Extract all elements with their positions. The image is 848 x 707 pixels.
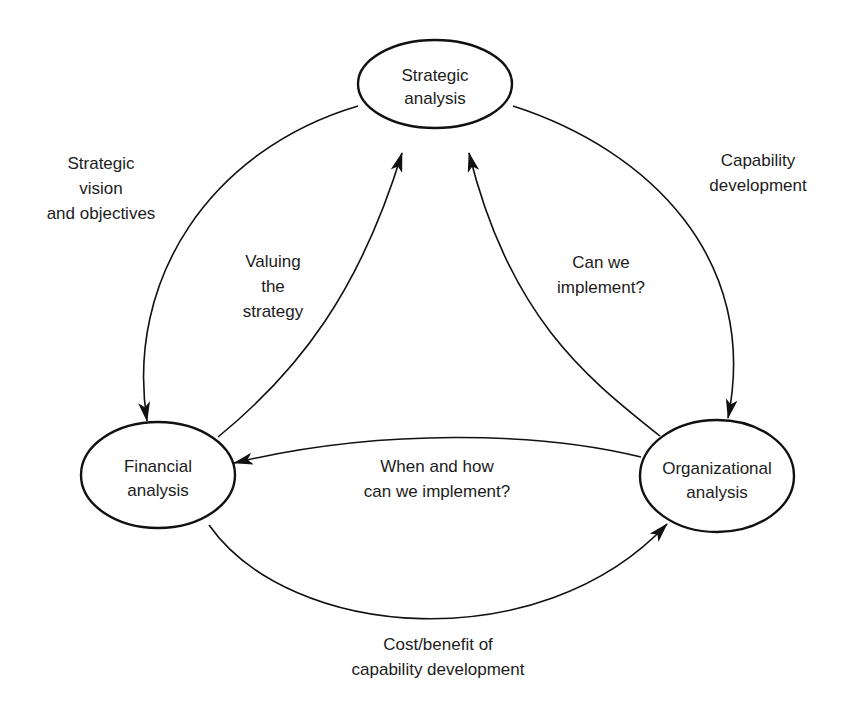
- node-strategic-label-2: analysis: [404, 89, 465, 108]
- label-when-and-how-2: can we implement?: [364, 482, 510, 501]
- label-valuing-strategy-2: the: [261, 277, 285, 296]
- label-when-and-how: When and how can we implement?: [364, 457, 510, 501]
- edge-financial-to-organizational: [209, 524, 667, 619]
- label-strategic-vision-1: Strategic: [67, 154, 135, 173]
- label-valuing-strategy-3: strategy: [243, 302, 304, 321]
- node-organizational-label-1: Organizational: [662, 459, 772, 478]
- label-when-and-how-1: When and how: [380, 457, 494, 476]
- label-cost-benefit-2: capability development: [352, 660, 525, 679]
- label-capability-development-2: development: [709, 176, 807, 195]
- label-can-we-implement-2: implement?: [557, 278, 645, 297]
- label-strategic-vision-2: vision: [79, 179, 122, 198]
- label-capability-development-1: Capability: [721, 151, 796, 170]
- label-strategic-vision-3: and objectives: [47, 204, 156, 223]
- node-organizational-analysis: Organizational analysis: [640, 420, 794, 532]
- label-valuing-strategy-1: Valuing: [245, 252, 300, 271]
- node-strategic-label-1: Strategic: [401, 66, 469, 85]
- node-organizational-label-2: analysis: [686, 483, 747, 502]
- label-valuing-strategy: Valuing the strategy: [243, 252, 304, 321]
- strategy-cycle-diagram: Strategic analysis Financial analysis Or…: [0, 0, 848, 707]
- label-can-we-implement-1: Can we: [572, 253, 630, 272]
- label-strategic-vision: Strategic vision and objectives: [47, 154, 156, 223]
- node-financial-label-1: Financial: [124, 457, 192, 476]
- node-strategic-analysis: Strategic analysis: [358, 40, 512, 128]
- node-financial-analysis: Financial analysis: [81, 422, 235, 528]
- node-financial-label-2: analysis: [127, 481, 188, 500]
- label-cost-benefit: Cost/benefit of capability development: [352, 635, 525, 679]
- edge-financial-to-strategic: [218, 153, 402, 437]
- label-capability-development: Capability development: [709, 151, 807, 195]
- label-can-we-implement: Can we implement?: [557, 253, 645, 297]
- label-cost-benefit-1: Cost/benefit of: [383, 635, 493, 654]
